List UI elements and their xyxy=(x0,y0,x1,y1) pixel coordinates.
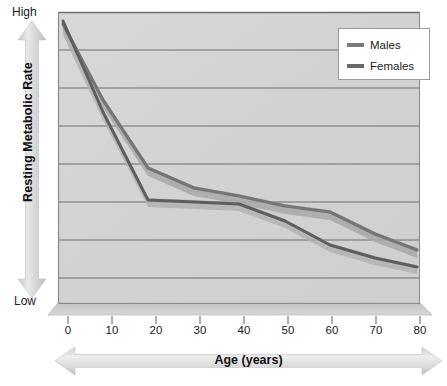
x-tick-label: 60 xyxy=(320,324,344,336)
x-tick-label: 40 xyxy=(232,324,256,336)
plot-base-slab xyxy=(48,303,432,315)
x-tick-label: 0 xyxy=(56,324,80,336)
females-legend-swatch xyxy=(347,64,364,68)
x-tick-label: 70 xyxy=(364,324,388,336)
x-tick-label: 10 xyxy=(100,324,124,336)
x-axis-title: Age (years) xyxy=(55,353,442,367)
chart-legend: Males Females xyxy=(338,28,430,80)
x-tick-label: 80 xyxy=(408,324,432,336)
males-legend-swatch xyxy=(347,43,364,47)
legend-item-females: Females xyxy=(347,58,414,74)
legend-item-males: Males xyxy=(347,37,401,53)
x-tick-label: 30 xyxy=(188,324,212,336)
legend-label: Females xyxy=(370,60,414,72)
legend-label: Males xyxy=(370,39,401,51)
x-tick-marks xyxy=(68,316,420,324)
chart-figure: High Low Resting Metabolic Rate xyxy=(0,0,447,386)
x-tick-label: 50 xyxy=(276,324,300,336)
x-tick-label: 20 xyxy=(144,324,168,336)
